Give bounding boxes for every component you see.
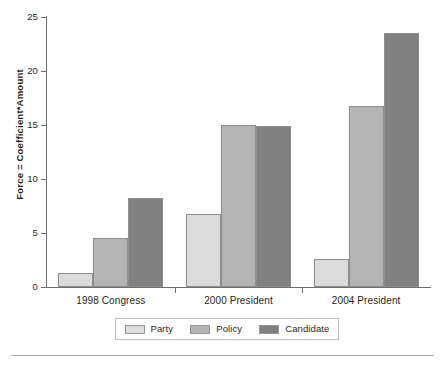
y-axis-title: Force = Coefficient*Amount [14,60,25,210]
legend-item-policy[interactable]: Policy [190,324,242,334]
y-axis-tick [41,71,46,72]
y-axis-tick-label: 25 [14,12,38,22]
y-axis-tick [41,233,46,234]
legend-label-party: Party [151,324,174,334]
y-axis-tick-label-wrap: 15 [10,125,38,126]
legend-item-party[interactable]: Party [125,324,174,334]
y-axis-tick [41,17,46,18]
legend-label-candidate: Candidate [285,324,329,334]
y-axis-tick-label: 20 [14,66,38,76]
legend-label-policy: Policy [216,324,242,334]
bar-policy-2000-president [221,125,256,287]
y-axis-tick [41,179,46,180]
y-axis-tick-label-wrap: 10 [10,179,38,180]
legend-swatch-policy-icon [190,325,210,334]
bar-candidate-2004-president [384,33,419,287]
x-axis-line [46,287,431,288]
category-label-2000-president: 2000 President [175,295,303,307]
y-axis-tick-label: 0 [14,282,38,292]
y-axis-tick-label-wrap: 0 [10,287,38,288]
y-axis-tick-label: 15 [14,120,38,130]
bar-candidate-2000-president [256,126,291,287]
legend-swatch-candidate-icon [259,325,279,334]
y-axis-tick-label: 5 [14,228,38,238]
bar-party-2004-president [314,259,349,287]
chart-legend: PartyPolicyCandidate [115,318,339,340]
y-axis-tick [41,125,46,126]
legend-item-candidate[interactable]: Candidate [259,324,329,334]
y-axis-tick-label-wrap: 5 [10,233,38,234]
y-axis-tick [41,287,46,288]
x-axis-tick [302,288,303,293]
bar-party-2000-president [186,214,221,287]
bar-party-1998-congress [58,273,93,287]
y-axis-tick-label: 10 [14,174,38,184]
bar-policy-2004-president [349,106,384,287]
bar-policy-1998-congress [93,238,128,287]
footer-rule [11,355,434,356]
bars-layer [47,17,430,287]
category-label-1998-congress: 1998 Congress [47,295,175,307]
bar-chart-figure: Force = Coefficient*Amount 0510152025 19… [0,0,445,365]
bar-candidate-1998-congress [128,198,163,287]
x-axis-tick [175,288,176,293]
category-label-2004-president: 2004 President [302,295,430,307]
legend-swatch-party-icon [125,325,145,334]
y-axis-tick-label-wrap: 25 [10,17,38,18]
y-axis-tick-label-wrap: 20 [10,71,38,72]
